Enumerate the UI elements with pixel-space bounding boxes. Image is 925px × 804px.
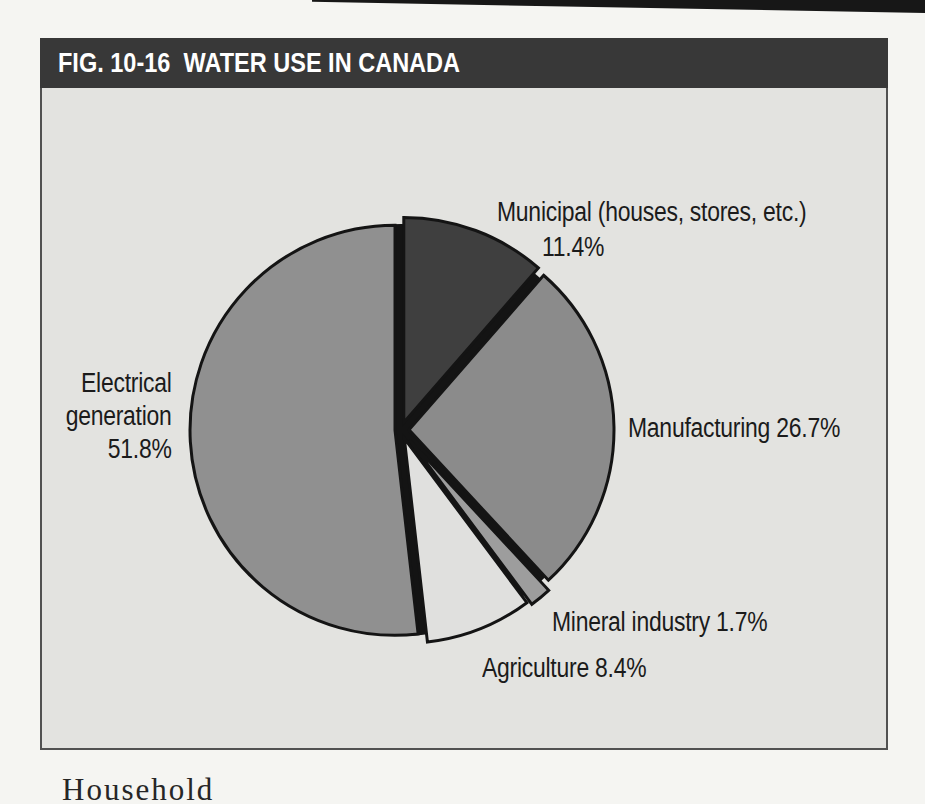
pie-chart [171,200,631,660]
label-electrical: Electrical generation 51.8% [66,367,172,466]
label-manufacturing: Manufacturing 26.7% [628,413,840,445]
label-electrical-line1: Electrical [66,367,172,400]
figure-title-bar: FIG. 10-16 WATER USE IN CANADA [40,38,888,88]
label-municipal-percent: 11.4% [542,232,604,264]
label-municipal: Municipal (houses, stores, etc.) [497,197,806,229]
pie-slice-4 [190,225,418,635]
label-electrical-line2: generation [66,400,172,433]
label-agriculture: Agriculture 8.4% [482,653,646,685]
body-text-partial: Household [62,772,214,804]
label-electrical-percent: 51.8% [66,433,172,466]
label-mineral: Mineral industry 1.7% [552,607,767,639]
figure-title: FIG. 10-16 WATER USE IN CANADA [58,47,460,79]
page-scan-edge-artifact [312,0,925,13]
